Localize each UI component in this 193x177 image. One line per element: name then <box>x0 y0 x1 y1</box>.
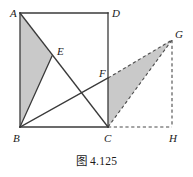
vertex-label-e: E <box>56 45 64 57</box>
geometry-figure: A D E F G B C H 图 4.125 <box>0 0 193 177</box>
vertex-label-g: G <box>175 28 183 40</box>
vertex-label-h: H <box>168 132 178 144</box>
vertex-label-c: C <box>104 132 112 144</box>
figure-caption: 图 4.125 <box>0 152 193 168</box>
vertex-label-f: F <box>98 67 106 79</box>
vertex-label-a: A <box>9 7 17 19</box>
geometry-canvas: A D E F G B C H <box>0 0 193 177</box>
shaded-triangle-abe <box>20 13 52 127</box>
shaded-regions <box>20 13 172 127</box>
vertex-label-d: D <box>111 7 120 19</box>
vertex-label-b: B <box>13 132 20 144</box>
